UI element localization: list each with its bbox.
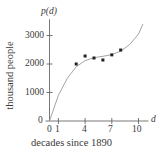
axes [46, 19, 149, 124]
x-tick-label-4: 4 [82, 124, 87, 134]
data-point [75, 63, 78, 66]
y-tick-label-1000: 1000 [25, 87, 44, 97]
y-axis-variable-label: p(d) [41, 6, 57, 16]
data-point [84, 55, 87, 58]
y-tick-label-3000: 3000 [25, 30, 44, 40]
y-tick-label-2000: 2000 [25, 58, 44, 68]
x-axis-title: decades since 1890 [31, 137, 112, 148]
x-axis-variable-label: d [151, 114, 156, 124]
x-tick-label-7: 7 [108, 124, 113, 134]
y-tick-label-0: 0 [38, 115, 43, 125]
data-point [93, 57, 96, 60]
data-point [110, 53, 113, 56]
data-point [119, 49, 122, 52]
data-point [101, 59, 104, 62]
y-axis-title: thousand people [4, 36, 15, 116]
x-tick-label-0: 0 [47, 124, 52, 134]
fitted-curve [50, 24, 143, 121]
x-tick-label-10: 10 [132, 124, 142, 134]
x-tick-label-1: 1 [55, 124, 60, 134]
